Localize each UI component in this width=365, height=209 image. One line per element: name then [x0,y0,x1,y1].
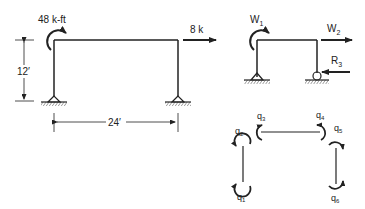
w2-label: W2 [327,23,340,36]
height-label: 12′ [17,66,30,77]
frame-members [54,40,178,96]
rotation-dof-icon [329,142,343,149]
left-frame: 48 k-ft 8 k 12′ 24′ [15,14,216,132]
moment-label: 48 k-ft [38,14,66,25]
span-label: 24′ [108,117,121,128]
element-dof-diagram: q2 q1 q3 q4 q5 q6 [234,110,343,204]
pin-support-icon [165,96,191,106]
r3-label: R3 [331,55,342,68]
right-frame: W1 W2 R3 [244,14,352,84]
load-label: 8 k [190,24,204,35]
q6-label: q6 [331,193,340,204]
pin-support-icon [41,96,67,106]
q2-label: q2 [235,126,244,137]
structural-diagram: 48 k-ft 8 k 12′ 24′ [0,0,365,209]
q1-label: q1 [237,192,246,203]
q4-label: q4 [316,110,325,121]
q5-label: q5 [334,123,343,134]
frame-members [257,40,317,77]
roller-support-icon [305,72,329,84]
q3-label: q3 [257,111,266,122]
w1-label: W1 [250,14,263,27]
